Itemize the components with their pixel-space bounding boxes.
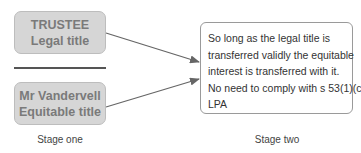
arrow-legal-to-result (106, 33, 199, 62)
result-line: transferred validly the equitable (208, 47, 346, 64)
result-line: interest is transferred with it. (208, 63, 346, 80)
trustee-legal-title-box: TRUSTEE Legal title (14, 11, 106, 54)
result-line: LPA (208, 96, 346, 113)
trustee-label: TRUSTEE (31, 17, 89, 33)
arrow-equitable-to-result (106, 79, 199, 107)
stage-one-label: Stage one (20, 134, 100, 145)
equitable-title-label: Equitable title (19, 104, 101, 120)
legal-title-label: Legal title (31, 33, 89, 49)
stage-two-result-box: So long as the legal title is transferre… (200, 22, 353, 114)
divider-line (14, 67, 106, 69)
result-line: No need to comply with s 53(1)(c) (208, 80, 346, 97)
vandervell-label: Mr Vandervell (19, 88, 100, 104)
stage-two-label: Stage two (237, 134, 317, 145)
result-line: So long as the legal title is (208, 30, 346, 47)
vandervell-equitable-title-box: Mr Vandervell Equitable title (14, 82, 106, 125)
